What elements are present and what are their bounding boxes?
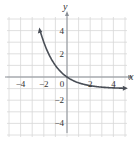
y-axis-label: y bbox=[62, 1, 68, 12]
x-tick-label: −4 bbox=[16, 79, 26, 89]
y-tick-label: 4 bbox=[60, 26, 65, 36]
graph: −4−202442−2−4 x y bbox=[0, 0, 139, 142]
y-tick-label: 2 bbox=[60, 49, 65, 59]
x-axis-label: x bbox=[128, 71, 134, 82]
y-tick-label: −2 bbox=[54, 95, 64, 105]
x-tick-label: −2 bbox=[39, 79, 49, 89]
x-tick-label: 2 bbox=[88, 79, 93, 89]
axis-arrow-icon bbox=[65, 11, 133, 79]
x-tick-label: 4 bbox=[111, 79, 116, 89]
y-tick-label: −4 bbox=[54, 118, 64, 128]
x-tick-label: 0 bbox=[60, 79, 65, 89]
